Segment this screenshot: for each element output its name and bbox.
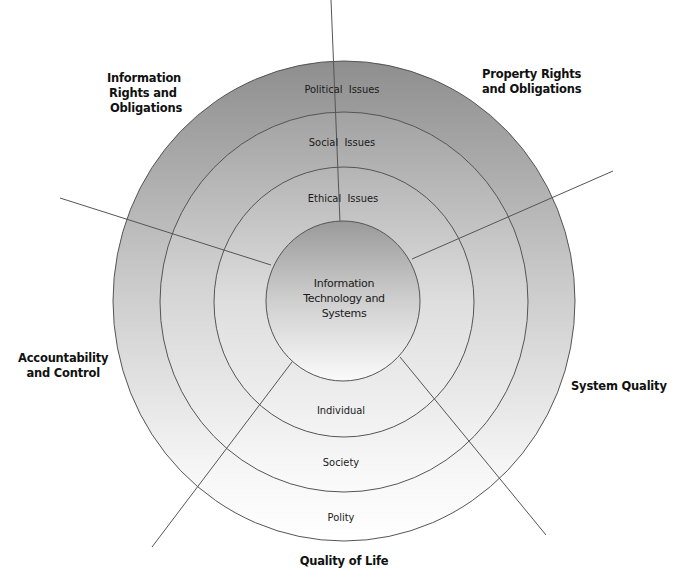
center-line-1: Information xyxy=(284,276,404,291)
dim-info-line-1: Information xyxy=(107,71,182,86)
center-line-3: Systems xyxy=(284,306,404,321)
center-label-it-systems: Information Technology and Systems xyxy=(284,276,404,321)
label-individual: Individual xyxy=(317,404,365,417)
dimension-system-quality: System Quality xyxy=(571,379,667,394)
label-social-issues: Social Issues xyxy=(309,136,375,149)
label-society: Society xyxy=(323,456,359,469)
dim-system-quality-line: System Quality xyxy=(571,379,667,394)
dim-account-line-1: Accountability xyxy=(18,351,108,366)
dimension-information-rights: Information Rights and Obligations xyxy=(107,71,182,116)
dim-property-line-2: and Obligations xyxy=(482,82,581,97)
dim-property-line-1: Property Rights xyxy=(482,67,581,82)
dim-quality-life-line: Quality of Life xyxy=(276,554,412,569)
center-line-2: Technology and xyxy=(284,291,404,306)
label-ethical-issues: Ethical Issues xyxy=(308,192,378,205)
dimension-property-rights: Property Rights and Obligations xyxy=(482,67,581,97)
dim-account-line-2: and Control xyxy=(18,366,108,381)
label-political-issues: Political Issues xyxy=(304,83,379,96)
dimension-accountability: Accountability and Control xyxy=(18,351,108,381)
dimension-quality-of-life: Quality of Life xyxy=(276,554,412,569)
dim-info-line-2: Rights and xyxy=(107,86,182,101)
dim-info-line-3: Obligations xyxy=(107,101,182,116)
label-polity: Polity xyxy=(328,511,355,524)
